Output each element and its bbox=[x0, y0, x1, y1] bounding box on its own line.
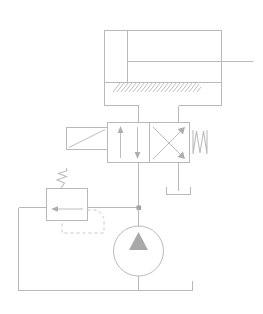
valve-return-spring bbox=[193, 130, 207, 154]
valve-bottom-ports bbox=[139, 163, 191, 208]
hydraulic-pump[interactable] bbox=[114, 226, 164, 291]
spring-zigzag-icon bbox=[193, 130, 207, 154]
cylinder-ground-mount bbox=[113, 83, 202, 93]
reservoir-tank bbox=[19, 281, 193, 291]
hydraulic-circuit-diagram bbox=[0, 0, 263, 314]
directional-control-valve[interactable] bbox=[108, 123, 190, 163]
solenoid-diagonal-icon bbox=[69, 130, 105, 148]
relief-valve-flow-arrowhead bbox=[51, 206, 58, 212]
solenoid-actuator[interactable] bbox=[67, 128, 108, 150]
valve-right-position-crossed-arrows bbox=[153, 127, 185, 159]
cylinder-barrel bbox=[105, 31, 222, 83]
pressure-relief-valve[interactable] bbox=[47, 168, 105, 233]
pressure-supply-lines bbox=[19, 206, 142, 291]
tank-line bbox=[19, 281, 193, 291]
cylinder-to-valve-lines bbox=[105, 83, 222, 123]
pump-flow-triangle-icon bbox=[129, 232, 148, 250]
mount-hatch-lines bbox=[113, 83, 201, 92]
relief-valve-body[interactable] bbox=[47, 189, 88, 221]
valve-left-position-parallel-arrows bbox=[118, 126, 141, 159]
circuit-canvas bbox=[0, 0, 263, 314]
relief-valve-spring-icon bbox=[57, 171, 68, 189]
double-acting-cylinder bbox=[105, 31, 253, 83]
relief-valve-pilot-line bbox=[62, 210, 104, 233]
